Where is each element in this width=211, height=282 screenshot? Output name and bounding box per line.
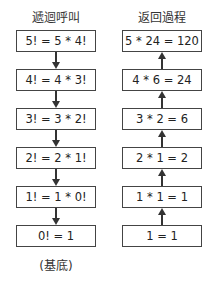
recursive-call-box-2: 4! = 4 * 3!: [16, 69, 96, 91]
recursive-call-box-3: 3! = 3 * 2!: [16, 108, 96, 130]
right-column-title: 返回過程: [122, 8, 202, 25]
base-case-note: (基底): [16, 256, 96, 273]
return-box-6: 1 = 1: [122, 225, 202, 247]
recursive-call-box-1: 5! = 5 * 4!: [16, 30, 96, 52]
recursive-call-box-4: 2! = 2 * 1!: [16, 147, 96, 169]
return-box-2: 4 * 6 = 24: [122, 69, 202, 91]
base-case-box: 0! = 1: [16, 225, 96, 247]
return-box-3: 3 * 2 = 6: [122, 108, 202, 130]
recursive-call-box-5: 1! = 1 * 0!: [16, 186, 96, 208]
return-box-1: 5 * 24 = 120: [122, 30, 202, 52]
left-column-title: 遞迴呼叫: [16, 8, 96, 25]
return-box-5: 1 * 1 = 1: [122, 186, 202, 208]
return-box-4: 2 * 1 = 2: [122, 147, 202, 169]
